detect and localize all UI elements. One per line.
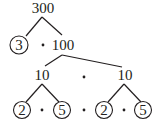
edge-10-left-to-5 bbox=[42, 84, 59, 102]
edge-300-to-3 bbox=[26, 17, 42, 36]
prime-node-2-right: 2 bbox=[100, 102, 108, 118]
root-node-300: 300 bbox=[32, 0, 55, 16]
multiply-dot-right-pair bbox=[123, 109, 126, 112]
edge-10-left-to-2 bbox=[26, 84, 42, 102]
multiply-dot-left-pair bbox=[41, 109, 44, 112]
prime-node-2-left: 2 bbox=[18, 102, 26, 118]
composite-node-100: 100 bbox=[52, 37, 75, 53]
edge-100-to-10-left bbox=[45, 55, 62, 66]
multiply-dot-level2 bbox=[83, 76, 86, 79]
edge-100-to-10-right bbox=[62, 55, 122, 67]
edge-10-right-to-2 bbox=[108, 84, 124, 102]
multiply-dot-level1 bbox=[42, 44, 45, 47]
composite-node-10-left: 10 bbox=[35, 67, 50, 83]
prime-node-3: 3 bbox=[15, 37, 23, 53]
edge-300-to-100 bbox=[42, 17, 62, 35]
edge-10-right-to-5 bbox=[124, 84, 141, 102]
prime-node-5-right: 5 bbox=[139, 102, 147, 118]
prime-node-5-left: 5 bbox=[58, 102, 66, 118]
factor-tree-diagram: 300 3 100 10 10 2 5 2 5 bbox=[0, 0, 163, 133]
multiply-dot-between-pairs bbox=[83, 109, 86, 112]
composite-node-10-right: 10 bbox=[118, 67, 133, 83]
